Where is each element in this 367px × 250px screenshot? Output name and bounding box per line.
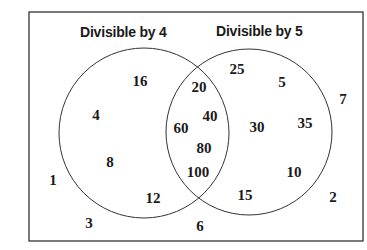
number-both: 80 — [197, 140, 212, 157]
number-only-4: 16 — [133, 73, 148, 90]
number-only-5: 25 — [230, 61, 245, 78]
number-only-5: 35 — [298, 115, 313, 132]
number-neither: 1 — [49, 172, 57, 189]
number-both: 60 — [174, 120, 189, 137]
number-neither: 7 — [339, 91, 347, 108]
number-both: 40 — [203, 108, 218, 125]
number-neither: 6 — [196, 218, 204, 235]
number-only-5: 10 — [287, 164, 302, 181]
number-neither: 3 — [85, 215, 93, 232]
number-only-5: 15 — [238, 187, 253, 204]
label-divisible-by-4: Divisible by 4 — [80, 24, 167, 40]
number-neither: 2 — [329, 189, 337, 206]
number-both: 100 — [187, 164, 210, 181]
universal-set-box — [29, 12, 363, 241]
number-only-4: 8 — [106, 154, 114, 171]
number-only-5: 30 — [250, 119, 265, 136]
number-only-5: 5 — [278, 74, 286, 91]
label-divisible-by-5: Divisible by 5 — [216, 23, 303, 39]
number-only-4: 12 — [146, 190, 161, 207]
number-both: 20 — [192, 79, 207, 96]
number-only-4: 4 — [92, 107, 100, 124]
